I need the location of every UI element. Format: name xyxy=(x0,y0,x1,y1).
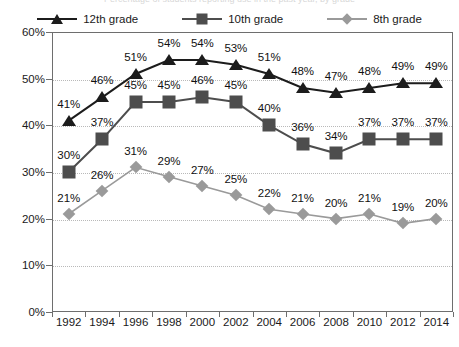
gridline xyxy=(53,173,452,174)
chart-legend: 12th grade10th grade8th grade xyxy=(0,9,459,29)
x-axis-tick-label: 2002 xyxy=(223,316,249,328)
chart-screenshot: Percentage of students reporting use in … xyxy=(0,0,459,347)
gridline xyxy=(53,266,452,267)
x-axis-tick-label: 1992 xyxy=(56,316,82,328)
diamond-icon xyxy=(342,13,353,24)
legend-label: 10th grade xyxy=(222,13,283,25)
x-axis-tick-label: 2010 xyxy=(357,316,383,328)
legend-item-10th-grade[interactable]: 10th grade xyxy=(182,12,283,26)
legend-label: 12th grade xyxy=(77,13,138,25)
x-axis-tick-label: 2008 xyxy=(323,316,349,328)
triangle-icon xyxy=(51,14,63,24)
gridline xyxy=(53,126,452,127)
gridline xyxy=(53,220,452,221)
legend-item-12th-grade[interactable]: 12th grade xyxy=(37,12,138,26)
x-axis-tick xyxy=(453,312,454,317)
x-axis-tick-label: 2000 xyxy=(190,316,216,328)
x-axis-tick-label: 2004 xyxy=(256,316,282,328)
x-axis-labels: 1992199419961998200020022004200620082010… xyxy=(52,316,453,336)
legend-label: 8th grade xyxy=(367,13,422,25)
x-axis-tick-label: 1994 xyxy=(89,316,115,328)
cropped-title-sliver: Percentage of students reporting use in … xyxy=(0,0,459,7)
legend-swatch xyxy=(182,12,222,26)
plot-area xyxy=(52,32,453,312)
y-axis-ticks xyxy=(0,32,53,312)
legend-swatch xyxy=(37,12,77,26)
x-axis-tick-label: 2014 xyxy=(423,316,449,328)
cropped-title-text: Percentage of students reporting use in … xyxy=(104,0,355,4)
legend-swatch xyxy=(327,12,367,26)
x-axis-tick-label: 1996 xyxy=(123,316,149,328)
square-icon xyxy=(197,14,208,25)
legend-item-8th-grade[interactable]: 8th grade xyxy=(327,12,422,26)
x-axis-tick-label: 2012 xyxy=(390,316,416,328)
x-axis-tick-label: 2006 xyxy=(290,316,316,328)
gridline xyxy=(53,80,452,81)
x-axis-tick-label: 1998 xyxy=(156,316,182,328)
